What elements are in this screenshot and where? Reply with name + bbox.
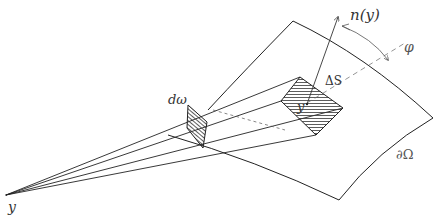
label-surface-element: ΔS — [325, 75, 342, 87]
label-angle: φ — [404, 40, 414, 54]
angle-arc — [342, 26, 388, 60]
label-normal: n(y) — [350, 8, 380, 23]
hidden-lines — [213, 110, 285, 130]
label-apex-y: y — [8, 200, 16, 214]
surface-point — [306, 103, 308, 105]
apex-point — [5, 194, 7, 196]
label-boundary: ∂Ω — [396, 148, 414, 161]
label-surface-y: y — [297, 100, 304, 113]
diagram-canvas — [0, 0, 440, 218]
label-solid-angle: dω — [168, 93, 187, 106]
